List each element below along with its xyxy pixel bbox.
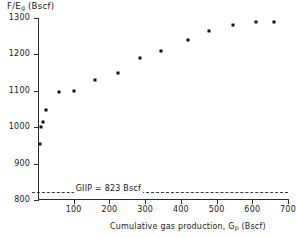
y-axis-tick-label: 1000: [9, 122, 30, 131]
data-point: [231, 24, 234, 27]
data-point: [94, 78, 97, 81]
y-axis-line: [38, 18, 39, 200]
x-axis-line: [38, 199, 288, 200]
data-point: [44, 108, 47, 111]
y-axis-tick: 1100: [34, 91, 39, 92]
x-axis-tick: [145, 199, 146, 204]
y-axis-tick-label: 1200: [9, 49, 30, 58]
y-axis-tick-label: 800: [14, 195, 30, 204]
x-axis-tick-label: 400: [173, 205, 189, 214]
data-point: [41, 120, 44, 123]
plot-area: 8009001000110012001300 10020030040050060…: [38, 18, 288, 200]
data-point: [40, 126, 43, 129]
data-point: [187, 38, 190, 41]
x-axis-title: Cumulative gas production, Gp (Bscf): [110, 222, 266, 231]
y-axis-tick: 1000: [34, 127, 39, 128]
data-point: [138, 57, 141, 60]
data-point: [254, 20, 257, 23]
giip-reference-label: GIIP = 823 Bscf: [74, 184, 143, 193]
data-point: [160, 49, 163, 52]
data-point: [72, 89, 75, 92]
gas-material-balance-chart: F/Eg (Bscf) 8009001000110012001300 10020…: [0, 0, 296, 238]
data-point: [117, 71, 120, 74]
x-axis-title-main: Cumulative gas production, G: [110, 222, 235, 231]
x-axis-tick: [74, 199, 75, 204]
y-axis-tick: 900: [34, 164, 39, 165]
x-axis-tick: [217, 199, 218, 204]
y-axis-tick: 1200: [34, 54, 39, 55]
y-axis-tick-label: 1300: [9, 13, 30, 22]
y-axis-tick: 800: [34, 200, 39, 201]
giip-reference-line: [32, 192, 288, 193]
x-axis-tick-label: 300: [137, 205, 153, 214]
data-point: [208, 29, 211, 32]
x-axis-tick-label: 700: [280, 205, 296, 214]
y-axis-tick-label: 1100: [9, 86, 30, 95]
x-axis-tick-label: 600: [244, 205, 260, 214]
x-axis-tick: [252, 199, 253, 204]
y-axis-title-tail: (Bscf): [25, 1, 54, 11]
x-axis-title-tail: (Bscf): [239, 222, 266, 231]
data-point: [38, 142, 41, 145]
x-axis-tick-label: 100: [66, 205, 82, 214]
y-axis-title: F/Eg (Bscf): [7, 1, 54, 11]
data-point: [272, 21, 275, 24]
x-axis-tick: [181, 199, 182, 204]
x-axis-tick: [109, 199, 110, 204]
x-axis-tick: [288, 199, 289, 204]
data-point: [58, 90, 61, 93]
y-axis-tick: 1300: [34, 18, 39, 19]
y-axis-tick-label: 900: [14, 159, 30, 168]
y-axis-title-main: F/E: [7, 1, 21, 11]
x-axis-tick-label: 200: [101, 205, 117, 214]
x-axis-tick-label: 500: [209, 205, 225, 214]
